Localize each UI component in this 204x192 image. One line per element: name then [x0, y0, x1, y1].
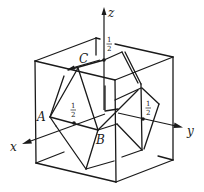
y-axis-label: y	[186, 124, 194, 138]
fraction-numerator: 1	[107, 36, 111, 44]
z-axis-arrowhead-icon	[102, 7, 107, 15]
poly-edge	[141, 84, 142, 150]
poly-edge	[86, 161, 114, 169]
point-b-label: B	[95, 133, 105, 147]
point-front-half	[72, 121, 76, 125]
fraction-z: 1 2	[107, 36, 113, 53]
top-front-left-edge	[35, 61, 115, 80]
diagram-canvas: z x y C A B 1 2 1 2 1 2	[0, 0, 204, 192]
bottom-front-left-edge	[36, 163, 116, 182]
x-axis-label: x	[10, 140, 17, 154]
fraction-denominator: 2	[71, 111, 75, 119]
axes	[22, 7, 183, 144]
poly-edge	[125, 52, 141, 84]
poly-edge	[56, 126, 86, 169]
fraction-x: 1 2	[71, 102, 77, 119]
c-edge-arrowhead-icon	[68, 66, 75, 70]
poly-edge	[122, 52, 138, 83]
z-axis-label: z	[107, 6, 115, 20]
bottom-back-left-edge-partial	[36, 152, 64, 163]
fraction-denominator: 2	[146, 109, 150, 117]
fraction-numerator: 1	[71, 102, 75, 110]
fraction-y: 1 2	[146, 100, 152, 117]
y-axis-arrowhead-icon	[174, 123, 184, 129]
point-right-half	[141, 117, 145, 121]
poly-edge	[115, 88, 141, 100]
back-bottom-edge-stub	[105, 109, 118, 111]
fraction-denominator: 2	[107, 45, 111, 53]
poly-edge	[142, 88, 159, 104]
x-axis-arrowhead-icon	[22, 139, 32, 145]
point-top-half	[102, 58, 106, 62]
bottom-front-right-edge	[116, 160, 173, 182]
point-c-label: C	[79, 52, 88, 66]
bottom-back-right-edge-partial	[158, 156, 173, 160]
poly-edge	[117, 124, 142, 150]
cube-diagram: z x y C A B 1 2 1 2 1 2	[0, 0, 204, 192]
fraction-numerator: 1	[146, 100, 150, 108]
top-front-right-edge	[115, 57, 173, 80]
point-a-label: A	[36, 110, 46, 124]
front-vertical-edge	[115, 80, 116, 182]
front-left-vertical-edge	[35, 61, 36, 163]
poly-edge	[104, 52, 122, 60]
poly-edge	[122, 150, 142, 157]
